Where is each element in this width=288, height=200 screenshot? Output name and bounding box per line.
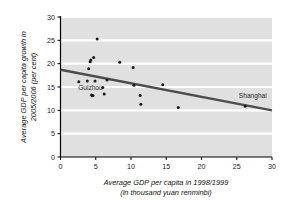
data-point [139, 103, 142, 106]
data-point [87, 67, 90, 70]
x-tick-label-15: 15 [162, 162, 170, 171]
data-point [86, 79, 89, 82]
annotation-shanghai: Shanghai [239, 92, 267, 100]
annotation-guizhou: Guizhou [78, 84, 103, 91]
data-point [106, 79, 109, 82]
data-point [118, 61, 121, 64]
y-tick-label-20: 20 [47, 59, 55, 68]
x-axis-title-line2: (in thousand yuan renminbi) [120, 188, 212, 197]
x-tick-label-0: 0 [59, 162, 63, 171]
data-point [103, 93, 106, 96]
scatter-chart: 051015202530 051015202530 GuizhouShangha… [0, 0, 288, 200]
data-point [77, 80, 80, 83]
x-axis-title-line1: Average GDP per capita in 1998/1999 [103, 178, 229, 187]
data-point [94, 79, 97, 82]
y-tick-label-25: 25 [47, 36, 55, 45]
y-tick-label-10: 10 [47, 106, 55, 115]
data-point [96, 37, 99, 40]
data-point [91, 94, 94, 97]
x-tick-label-10: 10 [127, 162, 135, 171]
y-tick-label-15: 15 [47, 83, 55, 92]
x-tick-label-30: 30 [268, 162, 276, 171]
x-tick-label-5: 5 [94, 162, 98, 171]
x-tick-label-20: 20 [198, 162, 206, 171]
data-point [177, 106, 180, 109]
data-point [244, 105, 247, 108]
data-point [89, 58, 92, 61]
data-point [132, 66, 135, 69]
data-point [92, 56, 95, 59]
y-tick-label-30: 30 [47, 13, 55, 22]
data-point [139, 94, 142, 97]
y-tick-label-0: 0 [51, 153, 55, 162]
data-point [132, 84, 135, 87]
y-tick-label-5: 5 [51, 129, 55, 138]
y-axis-title-line1: Average GDP per capita growth in [19, 31, 28, 144]
chart-figure: 051015202530 051015202530 GuizhouShangha… [0, 0, 288, 200]
data-point [161, 83, 164, 86]
x-axis-title: Average GDP per capita in 1998/1999 (in … [103, 178, 229, 197]
y-axis-title-line2: 2005/2006 (per cent) [29, 52, 38, 122]
x-tick-label-25: 25 [233, 162, 241, 171]
